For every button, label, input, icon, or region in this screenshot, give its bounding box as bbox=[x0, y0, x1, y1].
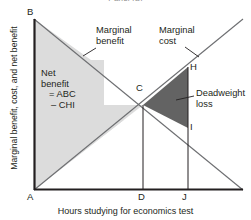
marginal-benefit-label-line1: Marginal bbox=[96, 25, 132, 35]
marginal-cost-label-line1: Marginal bbox=[159, 25, 195, 35]
net-benefit-formula-abc: = ABC bbox=[41, 89, 76, 99]
point-label-a: A bbox=[27, 192, 33, 202]
deadweight-loss-region bbox=[143, 67, 188, 128]
point-label-j: J bbox=[182, 192, 187, 202]
net-benefit-formula-chi: – CHI bbox=[41, 100, 75, 110]
deadweight-loss-label-line1: Deadweight bbox=[196, 88, 245, 98]
marginal-cost-label: Marginal cost bbox=[159, 25, 195, 46]
point-label-i: I bbox=[190, 122, 193, 132]
point-label-c: C bbox=[136, 83, 143, 93]
marginal-benefit-label-line2: benefit bbox=[96, 36, 124, 46]
marginal-benefit-leader-line bbox=[83, 48, 96, 56]
net-benefit-label-line2: benefit bbox=[41, 79, 69, 89]
point-label-b: B bbox=[27, 7, 33, 17]
marginal-cost-label-line2: cost bbox=[159, 36, 176, 46]
deadweight-loss-label-line2: loss bbox=[196, 99, 213, 109]
economics-marginal-analysis-figure: Panel (a) Marginal benefit, cost, and ne… bbox=[0, 0, 251, 220]
net-benefit-label: Net benefit = ABC – CHI bbox=[41, 68, 76, 110]
marginal-cost-leader-line bbox=[185, 47, 199, 57]
x-axis-title: Hours studying for economics test bbox=[0, 206, 251, 216]
point-label-d: D bbox=[138, 192, 145, 202]
marginal-benefit-label: Marginal benefit bbox=[96, 25, 132, 46]
deadweight-loss-label: Deadweight loss bbox=[196, 88, 245, 109]
point-label-h: H bbox=[190, 62, 197, 72]
net-benefit-label-line1: Net bbox=[41, 68, 55, 78]
